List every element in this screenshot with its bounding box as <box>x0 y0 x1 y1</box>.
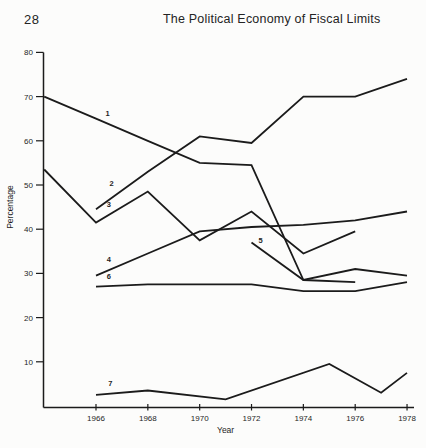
y-tick-label: 10 <box>24 358 33 367</box>
fiscal-limits-line-chart: 1020304050607080196619681970197219741976… <box>0 0 426 448</box>
x-tick-label: 1968 <box>139 414 157 423</box>
y-axis-title: Percentage <box>5 185 15 229</box>
y-tick-label: 40 <box>24 225 33 234</box>
x-tick-label: 1974 <box>294 414 312 423</box>
series-label-5: 5 <box>259 236 263 245</box>
x-tick-label: 1972 <box>243 414 261 423</box>
series-line-3 <box>44 170 355 254</box>
series-line-2 <box>96 79 407 209</box>
series-line-1 <box>44 97 407 280</box>
series-line-6 <box>96 282 407 291</box>
book-page: 28 The Political Economy of Fiscal Limit… <box>0 0 426 448</box>
x-axis-title: Year <box>217 425 234 435</box>
x-tick-label: 1966 <box>87 414 105 423</box>
y-tick-label: 50 <box>24 181 33 190</box>
x-tick-label: 1970 <box>191 414 209 423</box>
series-line-5 <box>252 243 356 283</box>
y-tick-label: 80 <box>24 48 33 57</box>
y-tick-label: 20 <box>24 314 33 323</box>
series-label-1: 1 <box>106 109 110 118</box>
series-label-7: 7 <box>108 379 112 388</box>
series-label-4: 4 <box>107 255 112 264</box>
x-tick-label: 1978 <box>398 414 416 423</box>
y-tick-label: 60 <box>24 137 33 146</box>
series-line-7 <box>96 364 407 399</box>
x-tick-label: 1976 <box>346 414 364 423</box>
y-tick-label: 70 <box>24 93 33 102</box>
series-label-6: 6 <box>107 272 111 281</box>
series-label-2: 2 <box>109 179 113 188</box>
series-label-3: 3 <box>107 200 111 209</box>
y-tick-label: 30 <box>24 269 33 278</box>
